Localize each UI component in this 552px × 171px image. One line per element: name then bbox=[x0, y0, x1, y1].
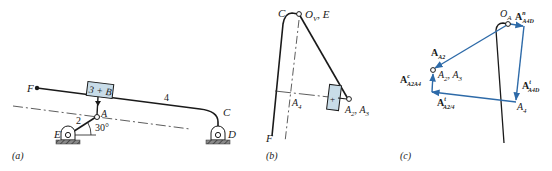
point-a2a3-c bbox=[431, 68, 436, 73]
angle-arc bbox=[88, 123, 91, 135]
label-c: C bbox=[223, 106, 231, 118]
label-at-a2-4: AtA2/4 bbox=[437, 96, 455, 110]
block-mark: + bbox=[330, 94, 335, 104]
label-d: D bbox=[227, 128, 236, 140]
link-4-overlay-c bbox=[496, 23, 508, 143]
vector-a-a2 bbox=[435, 25, 507, 68]
joint-o-b bbox=[297, 12, 302, 17]
label-oa: OA bbox=[500, 8, 512, 22]
label-o-b: OV, E bbox=[305, 8, 330, 23]
vector-an-a4d bbox=[510, 24, 523, 26]
label-a4-b: A4 bbox=[291, 97, 302, 111]
label-a4-c: A4 bbox=[516, 101, 527, 115]
caption-b: (b) bbox=[266, 150, 278, 162]
label-a: A bbox=[100, 108, 108, 119]
label-a-a2: AA2 bbox=[431, 47, 445, 60]
caption-a: (a) bbox=[12, 150, 24, 162]
label-link-2: 2 bbox=[76, 115, 81, 126]
label-c-b: C bbox=[278, 7, 286, 19]
label-f-b: F bbox=[265, 132, 273, 144]
label-f: F bbox=[26, 82, 34, 94]
label-an-a4d: AnA4D bbox=[515, 10, 535, 24]
centerline-b bbox=[285, 20, 299, 142]
label-link-4: 4 bbox=[164, 92, 169, 103]
label-at-a4d: AtA4D bbox=[522, 79, 540, 93]
ground-pivot-d bbox=[206, 126, 230, 144]
caption-c: (c) bbox=[400, 150, 412, 162]
panel-c: OA AnA4D AA2 A2, A3 AcA2A4 AtA4D AtA2/4 … bbox=[400, 8, 540, 162]
link-4-b bbox=[272, 13, 298, 136]
joint-a2-b bbox=[347, 97, 352, 102]
label-a2a3-c: A2, A3 bbox=[437, 69, 463, 83]
label-a2a3-b: A2, A3 bbox=[344, 104, 370, 118]
panel-a: F 3 + B 4 C D A 2 E 30° (a) bbox=[12, 81, 236, 162]
joint-a bbox=[95, 115, 100, 120]
label-ac-a2a4: AcA2A4 bbox=[400, 73, 421, 87]
pin-ba bbox=[97, 97, 98, 115]
vector-ac-a2a4 bbox=[432, 74, 433, 92]
link-4 bbox=[37, 88, 218, 133]
label-angle: 30° bbox=[95, 122, 109, 133]
panel-b: + C OV, E A4 A2, A3 F (b) bbox=[265, 7, 370, 162]
label-e: E bbox=[53, 128, 61, 140]
mechanism-figure: F 3 + B 4 C D A 2 E 30° (a) + C OV, E A4… bbox=[0, 0, 552, 171]
point-f bbox=[35, 86, 39, 90]
pole-oa bbox=[506, 22, 511, 27]
